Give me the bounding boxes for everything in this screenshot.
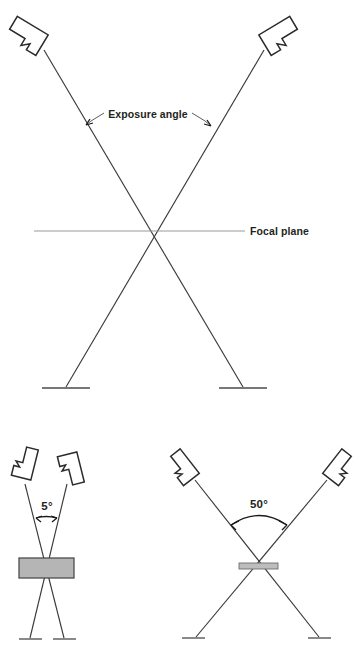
- exposure-angle-leader-right: [192, 113, 211, 126]
- angle-arrow-5deg: [36, 516, 57, 522]
- beam-left-to-right: [44, 50, 243, 387]
- focal-plane-label: Focal plane: [250, 225, 309, 237]
- beam-right-to-left: [66, 50, 264, 387]
- x-ray-tube-head-left: [5, 16, 48, 55]
- x-ray-tube-head-right: [259, 16, 302, 55]
- thick-focal-plane-slab: [19, 558, 74, 578]
- exposure-angle-label: Exposure angle: [108, 108, 188, 120]
- x-ray-tube-head-right: [323, 449, 357, 486]
- exposure-angle-panel: Exposure angle Focal plane: [5, 16, 309, 388]
- thin-focal-plane-slab: [239, 563, 278, 569]
- narrow-angle-panel: 5°: [11, 445, 84, 639]
- angle-label-50: 50°: [250, 498, 268, 510]
- tomography-exposure-angle-diagram: Exposure angle Focal plane: [0, 0, 357, 658]
- x-ray-tube-head-left: [11, 445, 38, 480]
- angle-arrow-50deg: [231, 516, 287, 531]
- x-ray-tube-head-left: [164, 449, 199, 486]
- figure-root: Exposure angle Focal plane: [0, 0, 357, 658]
- exposure-angle-leader-left: [86, 113, 104, 125]
- angle-label-5: 5°: [41, 500, 53, 512]
- wide-angle-panel: 50°: [164, 449, 357, 638]
- x-ray-tube-head-right: [57, 452, 84, 487]
